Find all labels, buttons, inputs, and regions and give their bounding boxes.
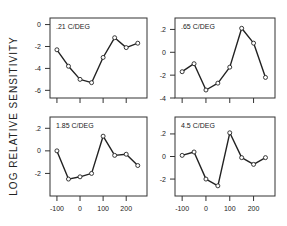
panel-title: 1.85 C/DEG (56, 122, 94, 129)
x-tick-label: 200 (248, 205, 260, 212)
x-tick-label: 100 (97, 205, 109, 212)
data-point (55, 48, 59, 52)
data-point (66, 177, 70, 181)
data-point (240, 26, 244, 30)
panel-title: .65 C/DEG (181, 23, 215, 30)
data-point (113, 36, 117, 40)
y-tick-label: 0 (37, 147, 41, 154)
data-point (240, 156, 244, 160)
data-point (192, 150, 196, 154)
data-point (90, 171, 94, 175)
data-point (66, 64, 70, 68)
panel-frame (175, 18, 275, 98)
data-point (124, 46, 128, 50)
y-tick-label: -2 (35, 170, 41, 177)
data-point (216, 81, 220, 85)
data-point (228, 131, 232, 135)
x-tick-label: -100 (175, 205, 189, 212)
y-tick-label: -2 (160, 72, 166, 79)
data-point (192, 62, 196, 66)
data-point (136, 41, 140, 45)
panel-title: .21 C/DEG (56, 23, 90, 30)
data-point (101, 55, 105, 59)
y-tick-label: 0 (37, 21, 41, 28)
data-point (216, 184, 220, 188)
data-point (204, 177, 208, 181)
data-point (180, 153, 184, 157)
series-line (57, 136, 138, 179)
y-tick-label: -6 (35, 87, 41, 94)
data-point (252, 41, 256, 45)
data-point (90, 81, 94, 85)
series-line (182, 133, 265, 186)
panel-4: 4.5 C/DEG.20-2-1000100200 (160, 117, 275, 212)
series-line (182, 28, 265, 90)
y-tick-label: .2 (35, 125, 41, 132)
panel-1: .21 C/DEG0-2-4-6 (35, 18, 147, 103)
data-point (252, 162, 256, 166)
y-tick-label: -2 (160, 176, 166, 183)
data-point (101, 134, 105, 138)
chart: LOG RELATIVE SENSITIVITY .21 C/DEG0-2-4-… (0, 0, 287, 226)
panel-title: 4.5 C/DEG (181, 122, 215, 129)
data-point (228, 65, 232, 69)
y-tick-label: 0 (162, 153, 166, 160)
y-tick-label: .2 (160, 26, 166, 33)
y-tick-label: -2 (35, 43, 41, 50)
data-point (180, 70, 184, 74)
x-tick-label: 0 (78, 205, 82, 212)
data-point (263, 75, 267, 79)
y-tick-label: .2 (160, 130, 166, 137)
data-point (204, 88, 208, 92)
x-tick-label: 200 (120, 205, 132, 212)
data-point (113, 153, 117, 157)
x-tick-label: 100 (224, 205, 236, 212)
data-point (78, 77, 82, 81)
data-point (263, 156, 267, 160)
panel-frame (50, 18, 147, 98)
y-axis-label: LOG RELATIVE SENSITIVITY (8, 36, 19, 195)
data-point (124, 152, 128, 156)
data-point (78, 175, 82, 179)
x-tick-label: 0 (204, 205, 208, 212)
panel-3: 1.85 C/DEG.20-2-1000100200 (35, 117, 147, 212)
y-tick-label: 0 (162, 49, 166, 56)
panels: .21 C/DEG0-2-4-6.65 C/DEG.20-2-41.85 C/D… (35, 18, 275, 212)
data-point (136, 164, 140, 168)
x-tick-label: -100 (50, 205, 64, 212)
data-point (55, 149, 59, 153)
panel-2: .65 C/DEG.20-2-4 (160, 18, 275, 103)
y-tick-label: -4 (35, 65, 41, 72)
series-line (57, 38, 138, 83)
y-tick-label: -4 (160, 95, 166, 102)
